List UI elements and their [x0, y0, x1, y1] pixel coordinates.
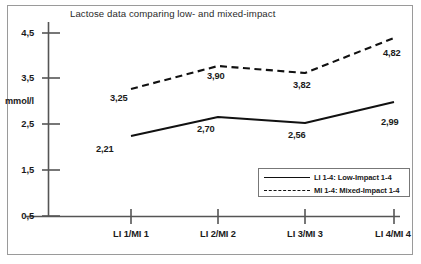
- data-label-low-4: 2,99: [381, 117, 399, 127]
- y-axis-label-1-5: 1,5: [6, 164, 34, 175]
- data-label-mixed-1: 3,25: [110, 93, 128, 103]
- data-label-mixed-3: 3,82: [293, 80, 311, 90]
- y-axis-label-3-5: 3,5: [6, 72, 34, 83]
- data-label-low-3: 2,56: [288, 130, 306, 140]
- x-axis-label-3: LI 3/MI 3: [265, 229, 345, 239]
- chart-legend: LI 1-4: Low-Impact 1-4 MI 1-4: Mixed-Imp…: [258, 168, 410, 197]
- series-line-mixed-impact: [131, 38, 394, 89]
- y-axis-label-4-5: 4,5: [6, 27, 34, 38]
- legend-item-mixed-impact: MI 1-4: Mixed-Impact 1-4: [259, 184, 409, 197]
- data-label-mixed-2: 3,90: [207, 71, 225, 81]
- data-label-low-1: 2,21: [96, 144, 114, 154]
- legend-label-mixed-impact: MI 1-4: Mixed-Impact 1-4: [314, 186, 399, 195]
- series-line-low-impact: [131, 102, 394, 136]
- x-axis-label-1: LI 1/MI 1: [91, 229, 171, 239]
- legend-swatch-solid-icon: [264, 173, 310, 183]
- x-axis-label-2: LI 2/MI 2: [178, 229, 258, 239]
- legend-item-low-impact: LI 1-4: Low-Impact 1-4: [259, 171, 409, 184]
- chart-figure: Lactose data comparing low- and mixed-im…: [0, 0, 421, 264]
- legend-swatch-dashed-icon: [264, 186, 310, 196]
- chart-title: Lactose data comparing low- and mixed-im…: [70, 8, 360, 19]
- data-label-low-2: 2,70: [197, 124, 215, 134]
- y-axis-label-2-5: 2,5: [6, 118, 34, 129]
- legend-label-low-impact: LI 1-4: Low-Impact 1-4: [314, 173, 392, 182]
- y-axis-title: mmol/l: [5, 96, 34, 106]
- x-axis-label-4: LI 4/MI 4: [353, 229, 421, 239]
- data-label-mixed-4: 4,82: [383, 48, 401, 58]
- y-axis-label-0-5: 0,5: [6, 210, 34, 221]
- plot-area: Lactose data comparing low- and mixed-im…: [0, 0, 421, 264]
